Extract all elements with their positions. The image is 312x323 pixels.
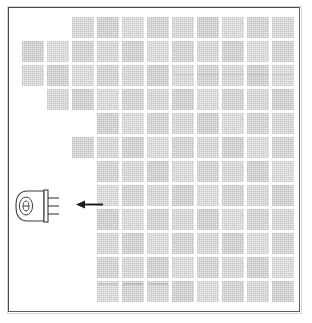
- grid-cell: [72, 65, 94, 86]
- grid-cell: [97, 89, 119, 110]
- grid-cell: [172, 17, 194, 38]
- grid-cell: [172, 233, 194, 254]
- grid-cell: [22, 65, 44, 86]
- grid-cell: [97, 41, 119, 62]
- grid-cell: [222, 41, 244, 62]
- grid-cell: [272, 233, 294, 254]
- grid-cell: [272, 161, 294, 182]
- grid-cell: [247, 137, 269, 158]
- grid-cell: [122, 65, 144, 86]
- grid-cell: [147, 185, 169, 206]
- grid-cell: [122, 281, 144, 302]
- grid-cell: [172, 137, 194, 158]
- grid-cell: [197, 89, 219, 110]
- grid-cell: [97, 257, 119, 278]
- grid-cell: [172, 65, 194, 86]
- grid-cell: [97, 161, 119, 182]
- grid-cell: [272, 113, 294, 134]
- grid-cell: [47, 41, 69, 62]
- grid-cell: [122, 41, 144, 62]
- grid-cell: [122, 257, 144, 278]
- grid-cell: [172, 161, 194, 182]
- grid-cell: [122, 185, 144, 206]
- grid-cell: [222, 209, 244, 230]
- grid-cell: [122, 161, 144, 182]
- grid-cell: [72, 17, 94, 38]
- grid-cell: [272, 137, 294, 158]
- grid-cell: [272, 257, 294, 278]
- grid-cell: [147, 137, 169, 158]
- grid-cell: [247, 17, 269, 38]
- grid-cell: [147, 17, 169, 38]
- grid-cell: [272, 17, 294, 38]
- grid-cell: [197, 209, 219, 230]
- grid-cell: [147, 281, 169, 302]
- grid-cell: [147, 41, 169, 62]
- grid-cell: [197, 41, 219, 62]
- figure-root: [0, 0, 312, 323]
- grid-cell: [222, 185, 244, 206]
- grid-cell: [172, 209, 194, 230]
- grid-cell: [272, 65, 294, 86]
- grid-cell: [272, 209, 294, 230]
- grid-cell: [222, 17, 244, 38]
- grid-cell: [247, 209, 269, 230]
- grid-cell: [272, 89, 294, 110]
- grid-cell: [47, 89, 69, 110]
- grid-cell: [247, 41, 269, 62]
- grid-cell: [172, 281, 194, 302]
- grid-cell: [147, 257, 169, 278]
- grid-cell: [222, 257, 244, 278]
- grid-cell: [97, 65, 119, 86]
- grid-cell: [247, 161, 269, 182]
- flow-arrow: [76, 199, 104, 210]
- grid-cell: [197, 233, 219, 254]
- grid-cell: [272, 281, 294, 302]
- grid-cell: [172, 113, 194, 134]
- grid-cell: [272, 185, 294, 206]
- grid-cell: [197, 17, 219, 38]
- grid-cell: [272, 41, 294, 62]
- grid-cell: [147, 89, 169, 110]
- grid-cell: [147, 161, 169, 182]
- grid-cell: [72, 41, 94, 62]
- grid-cell: [197, 281, 219, 302]
- grid-cell: [172, 89, 194, 110]
- grid-cell: [97, 17, 119, 38]
- grid-cell: [147, 233, 169, 254]
- grid-cell: [147, 65, 169, 86]
- grid-cell: [247, 233, 269, 254]
- grid-cell: [147, 113, 169, 134]
- grid-cell: [172, 185, 194, 206]
- grid-cell: [122, 89, 144, 110]
- grid-cell: [222, 137, 244, 158]
- grid-cell: [197, 161, 219, 182]
- grid-cell: [97, 209, 119, 230]
- grid-cell: [72, 137, 94, 158]
- grid-cell: [122, 209, 144, 230]
- shaded-cell-grid: [0, 0, 312, 323]
- grid-cell: [197, 137, 219, 158]
- grid-cell: [97, 137, 119, 158]
- grid-cell: [197, 113, 219, 134]
- grid-cell: [247, 185, 269, 206]
- grid-cell: [197, 65, 219, 86]
- grid-cell: [222, 113, 244, 134]
- grid-cell: [247, 113, 269, 134]
- grid-cell: [197, 257, 219, 278]
- grid-cell: [222, 281, 244, 302]
- grid-cell: [22, 41, 44, 62]
- grid-cell: [122, 113, 144, 134]
- grid-cell: [222, 233, 244, 254]
- grid-cell: [122, 17, 144, 38]
- grid-cell: [172, 41, 194, 62]
- grid-cell: [222, 65, 244, 86]
- grid-cell: [172, 257, 194, 278]
- sensor-device-symbol: [14, 189, 62, 225]
- grid-cell: [247, 281, 269, 302]
- grid-cell: [97, 233, 119, 254]
- grid-cell: [122, 137, 144, 158]
- grid-cell: [147, 209, 169, 230]
- grid-cell: [47, 65, 69, 86]
- grid-cell: [222, 89, 244, 110]
